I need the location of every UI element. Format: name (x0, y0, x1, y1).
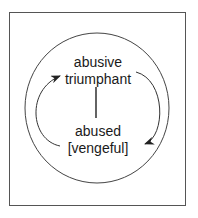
label-abused: abused (0, 123, 197, 139)
label-triumphant: triumphant (0, 71, 197, 87)
cycle-diagram (0, 0, 198, 218)
label-vengeful: [vengeful] (0, 140, 197, 156)
label-abusive: abusive (0, 54, 197, 70)
